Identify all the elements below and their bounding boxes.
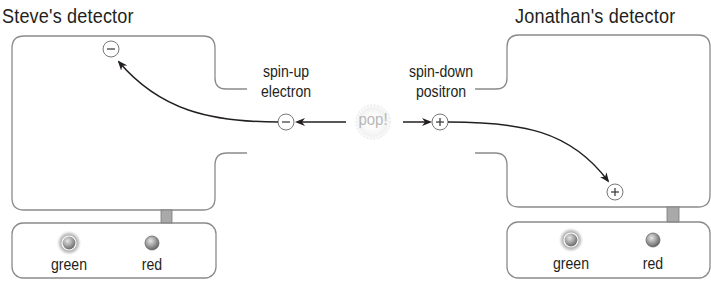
jonathan-light-panel (507, 222, 710, 278)
steve-green-light-icon (62, 236, 76, 250)
jonathan-green-light-icon (564, 233, 578, 247)
positron-label-line1: spin-down (401, 62, 480, 82)
jonathan-red-light-icon (646, 233, 660, 247)
electron-detected-icon (103, 41, 119, 57)
jonathan-green-label: green (545, 255, 598, 273)
jonathan-red-label: red (627, 255, 680, 273)
electron-center-icon (278, 114, 294, 130)
steve-green-label: green (43, 256, 96, 274)
jonathan-connector (667, 207, 679, 222)
positron-center-icon (432, 114, 448, 130)
positron-label-line2: positron (401, 82, 480, 102)
diagram-canvas (0, 0, 711, 288)
positron-label: spin-down positron (401, 62, 480, 102)
jonathan-detector-title: Jonathan's detector (515, 4, 675, 28)
positron-detected-icon (607, 184, 623, 200)
steve-red-light-icon (145, 236, 159, 250)
electron-label: spin-up electron (253, 62, 320, 102)
steve-detector-housing (12, 36, 247, 210)
steve-detector-title: Steve's detector (2, 4, 134, 28)
steve-red-label: red (126, 256, 179, 274)
pop-label: pop! (353, 110, 393, 130)
positron-path-arrow (448, 122, 608, 181)
electron-label-line1: spin-up (253, 62, 320, 82)
electron-label-line2: electron (253, 82, 320, 102)
steve-connector (161, 210, 172, 223)
jonathan-detector-housing (475, 35, 710, 207)
